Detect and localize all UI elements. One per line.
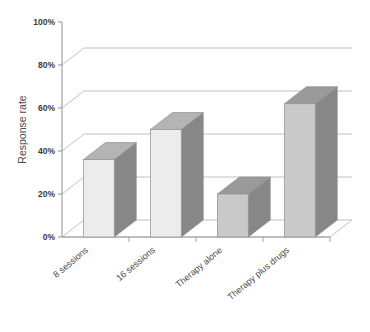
y-tick-label: 0% — [43, 232, 56, 242]
bar-side-face — [181, 113, 203, 238]
bar-1 — [150, 113, 203, 238]
x-category-label: Therapy alone — [174, 245, 225, 290]
bar-front-face — [83, 160, 114, 237]
y-tick-label: 60% — [38, 103, 55, 113]
y-tick-label: 100% — [33, 17, 55, 27]
y-tick-label: 40% — [38, 146, 55, 156]
bar-front-face — [150, 130, 181, 238]
bar-front-face — [217, 194, 248, 237]
bar-3 — [284, 87, 337, 237]
bar-0 — [83, 143, 136, 237]
x-category-label: 16 sessions — [114, 245, 157, 284]
y-axis-title: Response rate — [16, 95, 28, 163]
y-tick-label: 80% — [38, 60, 55, 70]
grid-line — [62, 48, 352, 65]
x-category-label: Therapy plus drugs — [226, 245, 292, 303]
chart-canvas: 0%20%40%60%80%100%8 sessions16 sessionsT… — [0, 0, 370, 332]
x-category-label: 8 sessions — [51, 245, 90, 280]
y-tick-label: 20% — [38, 189, 55, 199]
bar-side-face — [315, 87, 337, 237]
bar-chart: 0%20%40%60%80%100%8 sessions16 sessionsT… — [0, 0, 370, 332]
bar-front-face — [284, 104, 315, 237]
